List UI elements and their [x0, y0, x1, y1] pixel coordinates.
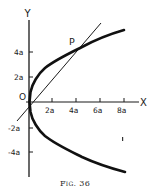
parabola-figure: Y X O 2a 4a 6a 8a 4a 2a -2a -4a P Fig. 3…: [0, 0, 150, 192]
point-p-label: P: [69, 36, 75, 47]
y-axis-label: Y: [24, 8, 32, 19]
y-tick-label: -2a: [8, 124, 20, 133]
origin-label: O: [19, 92, 26, 102]
x-axis-label: X: [140, 97, 147, 108]
x-tick-label: 8a: [117, 106, 126, 115]
figure-caption: Fig. 36: [0, 179, 150, 188]
y-tick-label: -4a: [8, 148, 20, 157]
x-tick-label: 4a: [69, 106, 78, 115]
x-tick-label: 2a: [45, 106, 54, 115]
print-speck: [122, 137, 123, 141]
x-tick-label: 6a: [93, 106, 102, 115]
y-tick-label: 2a: [14, 73, 23, 82]
y-tick-label: 4a: [14, 48, 23, 57]
x-ticks: [52, 98, 124, 102]
